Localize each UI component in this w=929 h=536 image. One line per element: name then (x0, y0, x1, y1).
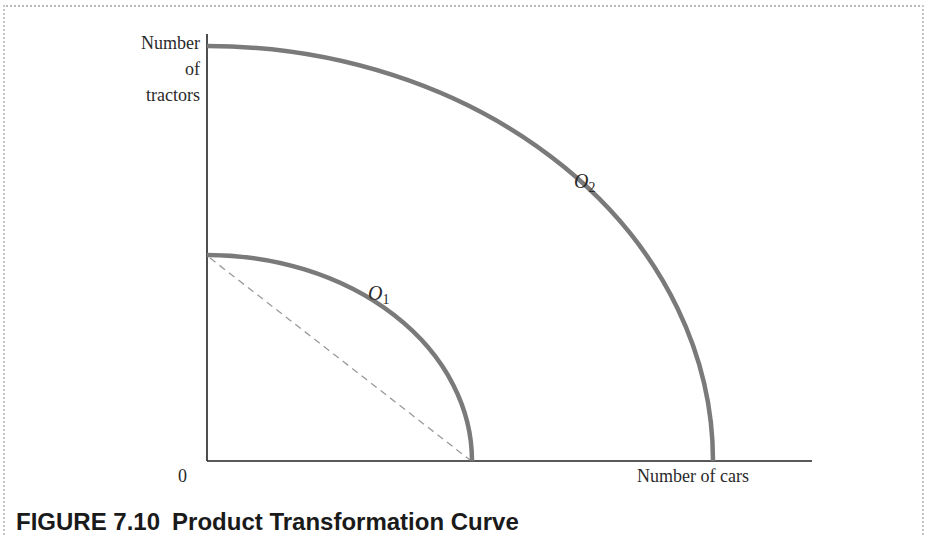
o1-curve-label: O1 (368, 282, 389, 308)
figure-title: Product Transformation Curve (172, 508, 519, 535)
figure-number: FIGURE 7.10 (16, 508, 160, 535)
o1-label-sub: 1 (382, 292, 389, 307)
y-axis-label-line-2: of (100, 56, 200, 82)
figure-caption: FIGURE 7.10Product Transformation Curve (16, 508, 519, 536)
o1-chord-dashed-line (210, 258, 470, 460)
y-axis-label-line-3: tractors (100, 82, 200, 108)
y-axis-label-line-1: Number (100, 30, 200, 56)
origin-label: 0 (178, 466, 187, 487)
o2-label-main: O (574, 170, 588, 192)
x-axis-label: Number of cars (637, 466, 749, 487)
o1-label-main: O (368, 282, 382, 304)
y-axis-label: Number of tractors (100, 30, 200, 108)
o2-curve-label: O2 (574, 170, 595, 196)
o2-label-sub: 2 (588, 180, 595, 195)
